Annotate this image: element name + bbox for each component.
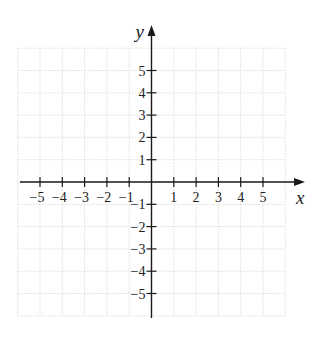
- x-tick-label: −2: [96, 190, 111, 205]
- y-axis-label: y: [134, 21, 145, 42]
- x-axis-arrow-icon: [294, 178, 305, 186]
- y-tick-label: 4: [139, 86, 146, 101]
- y-tick-label: −1: [131, 197, 146, 212]
- coordinate-plane: −5−4−3−2−112345 −5−4−3−2−112345 x y: [0, 0, 319, 342]
- y-tick-label: 2: [139, 130, 146, 145]
- x-tick-label: 4: [237, 190, 244, 205]
- y-tick-label: 1: [139, 153, 146, 168]
- y-tick-label: 3: [139, 108, 146, 123]
- y-tick-label: −5: [131, 287, 146, 302]
- x-tick-label: −4: [52, 190, 67, 205]
- x-tick-label: −3: [74, 190, 89, 205]
- x-tick-label: 3: [215, 190, 222, 205]
- x-axis-ticks: −5−4−3−2−112345: [30, 177, 267, 205]
- y-tick-label: 5: [139, 64, 146, 79]
- x-tick-label: −5: [30, 190, 45, 205]
- x-tick-label: 2: [193, 190, 200, 205]
- y-axis-arrow-icon: [148, 25, 156, 36]
- y-tick-label: −3: [131, 242, 146, 257]
- x-tick-label: 1: [170, 190, 177, 205]
- y-tick-label: −4: [131, 264, 146, 279]
- x-tick-label: 5: [260, 190, 267, 205]
- x-axis-label: x: [295, 187, 305, 208]
- y-tick-label: −2: [131, 220, 146, 235]
